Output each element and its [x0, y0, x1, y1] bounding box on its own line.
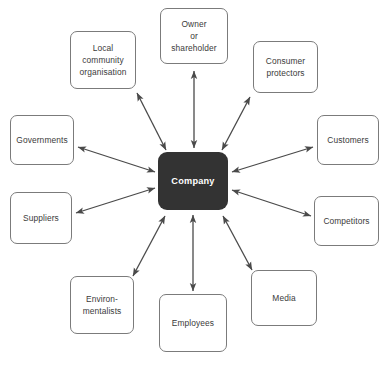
connector-consumer-protectors-to-company: [222, 97, 250, 150]
stakeholder-node-label: Customers: [324, 134, 371, 146]
stakeholder-node-label: Media: [269, 292, 298, 304]
stakeholder-node-suppliers: Suppliers: [10, 192, 72, 244]
stakeholder-node-environmentalists: Environ- mentalists: [70, 276, 134, 334]
stakeholder-node-label: Employees: [169, 317, 217, 329]
stakeholder-node-governments: Governments: [10, 115, 74, 165]
stakeholder-node-competitors: Competitors: [314, 196, 379, 246]
stakeholder-node-customers: Customers: [317, 115, 379, 165]
stakeholder-node-label: Consumer protectors: [263, 55, 308, 79]
stakeholder-diagram: Owner or shareholderLocal community orga…: [0, 0, 386, 373]
stakeholder-node-label: Environ- mentalists: [80, 293, 125, 317]
stakeholder-node-media: Media: [251, 270, 317, 326]
connector-media-to-company: [223, 216, 252, 270]
connector-environmentalists-to-company: [133, 216, 165, 276]
connector-competitors-to-company: [232, 190, 311, 216]
stakeholder-node-label: Suppliers: [20, 212, 62, 224]
connector-local-community-organisation-to-company: [137, 93, 166, 150]
stakeholder-node-label: Competitors: [320, 215, 372, 227]
stakeholder-node-label: Local community organisation: [77, 42, 130, 79]
stakeholder-node-owner: Owner or shareholder: [160, 8, 228, 64]
connector-suppliers-to-company: [76, 188, 155, 213]
stakeholder-node-employees: Employees: [159, 294, 227, 352]
stakeholder-node-consumer-protectors: Consumer protectors: [253, 41, 318, 93]
company-hub-label: Company: [171, 176, 214, 186]
stakeholder-node-label: Governments: [13, 134, 70, 146]
connector-governments-to-company: [78, 147, 155, 172]
company-hub-node: Company: [158, 152, 228, 210]
connector-customers-to-company: [232, 147, 313, 172]
stakeholder-node-local-community-organisation: Local community organisation: [70, 31, 136, 89]
stakeholder-node-label: Owner or shareholder: [168, 18, 219, 55]
